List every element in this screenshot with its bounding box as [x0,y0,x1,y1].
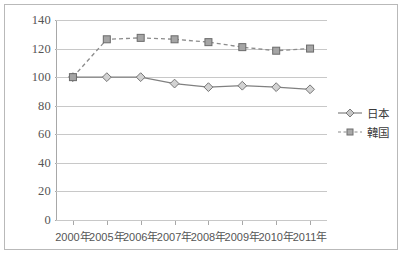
series-line-2 [73,38,310,77]
x-axis-tick-mark [107,221,108,225]
data-point-marker [205,39,212,46]
x-axis-tick-marks [56,221,327,226]
gridline [56,220,327,221]
plot-area [56,20,327,220]
x-axis-tick-mark [242,221,243,225]
data-point-marker [136,73,145,82]
data-point-marker [204,83,213,92]
x-axis-tick-label: 2008年 [191,228,226,244]
legend-swatch-diamond-line-icon [337,106,363,120]
legend-item-korea: 韓国 [337,122,395,141]
legend-swatch-square-dashed-icon [337,125,363,139]
legend: 日本 韓国 [337,103,395,141]
x-axis-tick-label: 2000年 [55,228,90,244]
x-axis-tick-mark [141,221,142,225]
x-axis-tick-label: 2005年 [89,228,124,244]
chart-screenshot: 020406080100120140 2000年2005年2006年2007年2… [0,0,402,254]
y-axis-tick-label: 100 [32,70,51,85]
y-axis-tick-label: 120 [32,41,51,56]
x-axis-tick-label: 2006年 [123,228,158,244]
y-axis-tick-label: 40 [38,155,51,170]
data-point-marker [69,74,76,81]
x-axis-tick-mark [73,221,74,225]
data-point-marker [137,34,144,41]
y-axis-tick-label: 20 [38,184,51,199]
data-point-marker [307,45,314,52]
y-axis-tick-labels: 020406080100120140 [10,20,51,220]
x-axis-tick-labels: 2000年2005年2006年2007年2008年2009年2010年2011年 [56,228,327,244]
legend-label-korea: 韓国 [363,124,389,140]
data-point-marker [103,36,110,43]
data-point-marker [273,47,280,54]
data-point-marker [170,79,179,88]
x-axis-tick-mark [310,221,311,225]
x-axis-tick-label: 2009年 [225,228,260,244]
data-point-marker [239,44,246,51]
y-axis-tick-label: 60 [38,127,51,142]
legend-label-japan: 日本 [363,105,389,121]
data-point-marker [272,83,281,92]
legend-item-japan: 日本 [337,103,395,122]
x-axis-tick-mark [276,221,277,225]
x-axis-tick-label: 2007年 [157,228,192,244]
data-point-marker [238,81,247,90]
y-axis-tick-label: 0 [45,213,51,228]
data-point-marker [306,85,315,94]
data-point-marker [171,36,178,43]
data-point-marker [102,73,111,82]
data-series-layer [56,20,327,220]
y-axis-tick-label: 140 [32,13,51,28]
x-axis-tick-label: 2010年 [258,228,293,244]
x-axis-tick-mark [208,221,209,225]
x-axis-tick-label: 2011年 [293,228,328,244]
x-axis-tick-mark [175,221,176,225]
y-axis-tick-label: 80 [38,98,51,113]
